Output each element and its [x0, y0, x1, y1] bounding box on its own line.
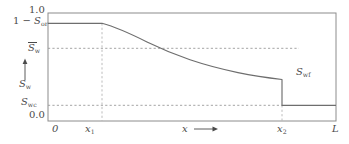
- one-minus-sor-prefix: 1 −: [13, 15, 34, 26]
- swc-subscript: wc: [28, 101, 37, 108]
- x-tick-L-text: L: [332, 123, 339, 134]
- sw-bar-subscript: w: [35, 47, 40, 54]
- y-tick-1-0-text: 1.0: [29, 4, 45, 15]
- x-axis-caption: x: [182, 124, 188, 134]
- x-tick-x1-base: x: [85, 123, 91, 134]
- y-label-one-minus-sor: 1 − Sor: [13, 16, 48, 26]
- x-axis-caption-text: x: [182, 123, 188, 134]
- saturation-profile-figure: 1.0 0.0 1 − Sor Sw Swc Sw 0 x1 x2 L x Sw…: [0, 0, 349, 144]
- y-label-sw-bar: Sw: [28, 43, 40, 53]
- curve-path: [48, 23, 336, 105]
- saturation-curve: [48, 23, 336, 105]
- y-tick-label-0-0: 0.0: [29, 110, 45, 120]
- y-label-swc: Swc: [21, 97, 37, 107]
- sw-bar-base: S: [28, 42, 35, 53]
- swf-base: S: [296, 66, 303, 77]
- one-minus-sor-subscript: or: [41, 20, 48, 27]
- x-tick-x2-subscript: 2: [283, 128, 287, 135]
- one-minus-sor-base: S: [34, 15, 41, 26]
- x-tick-0-text: 0: [52, 123, 58, 134]
- sw-bar-overbar-group: Sw: [28, 43, 40, 53]
- y-axis-caption-base: S: [19, 78, 26, 89]
- x-tick-label-x2: x2: [277, 124, 287, 134]
- y-tick-0-0-text: 0.0: [29, 109, 45, 120]
- curve-annotation-swf: Swf: [296, 67, 311, 77]
- x-arrow-head: [213, 127, 219, 132]
- x-tick-label-L: L: [332, 124, 339, 134]
- y-axis-arrow: [23, 59, 28, 81]
- y-arrow-head: [23, 59, 28, 65]
- x-tick-x2-base: x: [277, 123, 283, 134]
- y-tick-label-1-0: 1.0: [29, 5, 45, 15]
- reference-lines: [48, 23, 299, 121]
- x-axis-arrow: [194, 127, 218, 132]
- x-tick-label-0: 0: [52, 124, 58, 134]
- y-axis-caption-subscript: w: [26, 83, 31, 90]
- x-tick-label-x1: x1: [85, 124, 95, 134]
- y-axis-caption: Sw: [19, 79, 31, 89]
- swc-base: S: [21, 96, 28, 107]
- x-tick-x1-subscript: 1: [91, 128, 95, 135]
- swf-subscript: wf: [303, 71, 311, 78]
